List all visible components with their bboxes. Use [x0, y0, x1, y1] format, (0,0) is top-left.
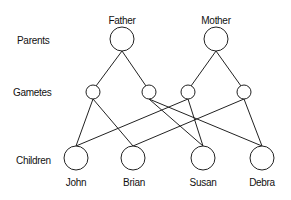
edge-father-gamete1 — [96, 51, 122, 86]
edge-gamete4-debra — [244, 99, 262, 146]
child-label-debra: Debra — [249, 177, 275, 188]
edge-gamete2-debra — [149, 99, 262, 146]
child-label-susan: Susan — [190, 177, 217, 188]
edge-mother-gamete3 — [191, 51, 216, 86]
gamete-node-1 — [86, 85, 100, 99]
child-label-brian: Brian — [123, 177, 145, 188]
parent-label-father: Father — [108, 15, 135, 26]
edge-gamete3-john — [76, 99, 188, 146]
edge-mother-gamete4 — [216, 51, 241, 86]
gamete-node-2 — [142, 85, 156, 99]
edge-father-gamete2 — [122, 51, 146, 86]
row-label-children: Children — [16, 155, 51, 166]
edge-gamete1-brian — [93, 99, 133, 146]
child-node-john — [64, 146, 88, 170]
pedigree-diagram — [0, 0, 291, 200]
edge-gamete1-john — [76, 99, 93, 146]
gamete-node-4 — [237, 85, 251, 99]
child-node-susan — [191, 146, 215, 170]
edge-gamete4-brian — [133, 99, 244, 146]
child-label-john: John — [66, 177, 87, 188]
row-label-gametes: Gametes — [13, 87, 51, 98]
row-label-parents: Parents — [17, 35, 49, 46]
edge-gamete2-susan — [149, 99, 203, 146]
child-node-brian — [121, 146, 145, 170]
father-node — [110, 27, 134, 51]
parent-label-mother: Mother — [201, 15, 230, 26]
gamete-node-3 — [181, 85, 195, 99]
child-node-debra — [250, 146, 274, 170]
mother-node — [204, 27, 228, 51]
